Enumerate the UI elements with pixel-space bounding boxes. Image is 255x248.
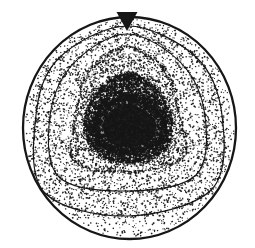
phase-portrait-figure xyxy=(0,0,255,248)
stipple-texture-layer xyxy=(0,0,255,248)
